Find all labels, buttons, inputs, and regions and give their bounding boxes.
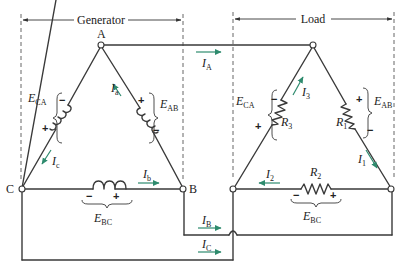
label-r1: R1 xyxy=(335,115,347,131)
label-r2: R2 xyxy=(309,165,321,181)
delta-delta-circuit-diagram: Generator Load xyxy=(0,0,406,269)
label-ia-gen: Ia xyxy=(110,81,119,97)
label-i2: I2 xyxy=(265,167,274,183)
resistor-r2-icon xyxy=(301,184,331,194)
node-b xyxy=(180,186,186,192)
node-c-label: C xyxy=(6,182,14,196)
generator-winding-ab xyxy=(101,46,183,188)
node-a-label: A xyxy=(97,27,106,41)
node-c xyxy=(19,186,25,192)
sign-plus-e-bc-load: + xyxy=(330,189,336,201)
sign-minus-e-bc-load: − xyxy=(293,189,299,201)
load-resistor-r2 xyxy=(234,184,390,194)
label-e-ca-gen: ECA xyxy=(27,91,47,107)
inductor-bc-icon xyxy=(93,181,126,189)
load-node-right xyxy=(388,186,394,192)
load-node-top xyxy=(310,42,316,48)
label-e-ab-gen: EAB xyxy=(159,97,178,113)
label-ic-gen: Ic xyxy=(51,154,60,170)
load-boundary xyxy=(233,12,394,180)
sign-minus-e-bc-gen: − xyxy=(86,190,92,202)
sign-minus-e-ca-gen: − xyxy=(59,94,65,106)
sign-plus-e-bc-gen: + xyxy=(113,190,119,202)
label-e-ca-load: ECA xyxy=(235,94,255,110)
label-e-ab-load: EAB xyxy=(373,94,392,110)
sign-minus-e-ab-load: − xyxy=(367,124,373,136)
load-node-left xyxy=(230,186,236,192)
sign-plus-e-ab-load: + xyxy=(356,93,362,105)
node-b-label: B xyxy=(189,182,197,196)
generator-label: Generator xyxy=(77,13,125,27)
current-i1-arrow-icon xyxy=(366,150,377,168)
generator-winding-bc xyxy=(23,181,182,189)
label-ib-gen: Ib xyxy=(142,167,151,183)
load-resistor-r1 xyxy=(313,46,391,188)
label-i3: I3 xyxy=(301,85,310,101)
label-e-bc-gen: EBC xyxy=(93,211,112,227)
label-ib-line: IB xyxy=(201,213,211,229)
sign-minus-e-ab-gen: − xyxy=(153,124,159,136)
node-a xyxy=(98,42,104,48)
load-label: Load xyxy=(301,12,326,26)
label-i1: I1 xyxy=(357,152,366,168)
sign-minus-e-ca-load: − xyxy=(271,93,277,105)
label-r3: R3 xyxy=(280,115,292,131)
sign-plus-e-ca-load: + xyxy=(255,120,261,132)
sign-plus-e-ab-gen: + xyxy=(138,94,144,106)
label-ic-line: IC xyxy=(201,237,211,253)
label-e-bc-load: EBC xyxy=(302,209,321,225)
label-ia-line: IA xyxy=(201,56,212,72)
load-resistor-r3 xyxy=(234,46,313,188)
sign-plus-e-ca-gen: + xyxy=(42,122,48,134)
